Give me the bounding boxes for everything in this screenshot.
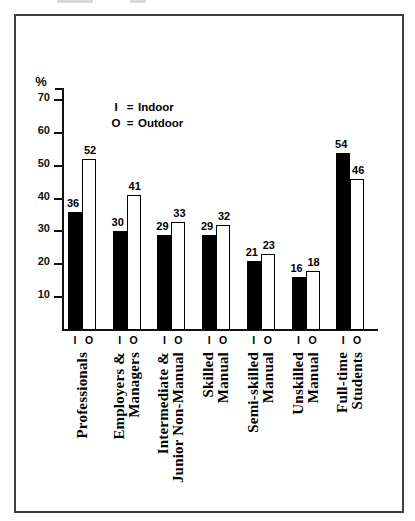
bar-value-label: 46	[346, 164, 370, 177]
category-label: Skilled Manual	[201, 352, 231, 403]
y-axis-tick-label: 50	[28, 157, 50, 169]
outdoor-bar	[261, 254, 275, 330]
y-axis-tick-label: 30	[28, 222, 50, 234]
legend-row-outdoor: O = Outdoor	[110, 115, 183, 131]
y-axis-tick-label: 70	[28, 91, 50, 103]
indoor-bar	[68, 212, 82, 330]
legend-equals: =	[122, 101, 138, 113]
bar-axis-letter-o: O	[262, 334, 274, 346]
bar-axis-letter-i: I	[337, 334, 349, 346]
indoor-bar	[247, 261, 261, 330]
page: % I = Indoor O = Outdoor 102030405060703…	[0, 0, 415, 521]
bar-axis-letter-i: I	[69, 334, 81, 346]
legend-symbol-outdoor: O	[110, 117, 122, 129]
bar-axis-letter-o: O	[83, 334, 95, 346]
bar-value-label: 32	[212, 210, 236, 223]
bar-value-label: 18	[302, 256, 326, 269]
category-label: Intermediate & Junior Non-Manual	[156, 352, 186, 483]
bar-axis-letter-i: I	[248, 334, 260, 346]
y-axis-tick	[54, 263, 63, 265]
chart-legend: I = Indoor O = Outdoor	[110, 99, 183, 131]
bar-axis-letter-o: O	[172, 334, 184, 346]
category-label: Semi-skilled Manual	[246, 352, 276, 433]
outdoor-bar	[216, 225, 230, 330]
indoor-bar	[113, 231, 127, 330]
bar-axis-letter-i: I	[293, 334, 305, 346]
indoor-bar	[202, 235, 216, 330]
outdoor-bar	[306, 271, 320, 330]
bar-axis-letter-o: O	[351, 334, 363, 346]
bar-axis-letter-o: O	[217, 334, 229, 346]
y-axis-tick	[54, 132, 63, 134]
bar-value-label: 54	[329, 138, 353, 151]
y-axis-tick-label: 10	[28, 288, 50, 300]
legend-label-outdoor: Outdoor	[138, 117, 183, 129]
legend-equals: =	[122, 117, 138, 129]
y-axis-tick	[54, 296, 63, 298]
bar-value-label: 33	[167, 207, 191, 220]
bar-chart: % I = Indoor O = Outdoor 102030405060703…	[0, 0, 415, 521]
outdoor-bar	[127, 195, 141, 330]
outdoor-bar	[171, 222, 185, 330]
category-label: Employers & Managers	[112, 352, 142, 440]
y-axis-tick-label: 40	[28, 190, 50, 202]
bar-axis-letter-i: I	[158, 334, 170, 346]
outdoor-bar	[350, 179, 364, 330]
y-axis-tick	[54, 99, 63, 101]
bar-axis-letter-o: O	[307, 334, 319, 346]
outdoor-bar	[82, 159, 96, 330]
bar-axis-letter-i: I	[114, 334, 126, 346]
indoor-bar	[157, 235, 171, 330]
bar-axis-letter-i: I	[203, 334, 215, 346]
category-label: Professionals	[75, 352, 90, 439]
y-axis-tick	[54, 230, 63, 232]
bar-value-label: 52	[78, 144, 102, 157]
category-label: Unskilled Manual	[291, 352, 321, 415]
indoor-bar	[292, 277, 306, 330]
legend-symbol-indoor: I	[110, 101, 122, 113]
y-axis-tick-label: 60	[28, 124, 50, 136]
y-axis-tick-label: 20	[28, 255, 50, 267]
bar-value-label: 23	[257, 239, 281, 252]
y-axis-tick	[54, 165, 63, 167]
bar-axis-letter-o: O	[128, 334, 140, 346]
legend-row-indoor: I = Indoor	[110, 99, 183, 115]
bar-value-label: 41	[123, 180, 147, 193]
indoor-bar	[336, 153, 350, 330]
y-axis-unit-label: %	[30, 74, 52, 89]
category-label: Full-time Students	[335, 352, 365, 413]
legend-label-indoor: Indoor	[138, 101, 183, 113]
